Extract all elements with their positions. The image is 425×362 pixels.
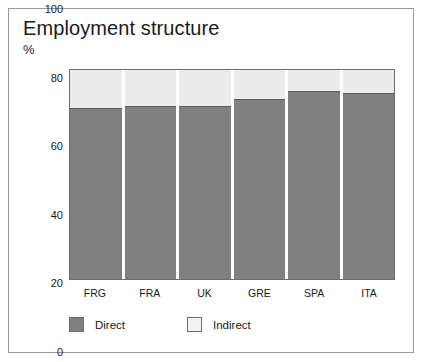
legend-swatch-direct-icon [69,317,84,332]
bar-ita[interactable] [343,70,395,279]
bar-gre-indirect [234,70,286,99]
bar-fra-indirect [125,70,177,106]
y-tick-80: 80 [17,72,63,84]
bar-gre[interactable] [234,70,286,279]
plot-area [69,69,395,280]
chart-figure: Employment structure % 0 20 40 60 80 100 [8,8,414,353]
bar-fra-direct [125,106,177,279]
bar-uk[interactable] [179,70,231,279]
y-axis-tick-labels: 0 20 40 60 80 100 [17,9,63,352]
legend-swatch-indirect-icon [187,317,202,332]
bar-uk-direct [179,106,231,279]
y-tick-20: 20 [17,277,63,289]
x-tick-spa: SPA [288,287,340,299]
bar-ita-indirect [343,70,395,93]
bar-gre-direct [234,99,286,279]
y-tick-60: 60 [17,140,63,152]
legend-item-indirect[interactable]: Indirect [187,317,251,332]
bar-uk-indirect [179,70,231,106]
bar-spa[interactable] [288,70,340,279]
x-tick-fra: FRA [124,287,176,299]
x-axis-tick-labels: FRG FRA UK GRE SPA ITA [69,287,395,299]
bar-spa-indirect [288,70,340,91]
bar-frg[interactable] [70,70,122,279]
y-tick-40: 40 [17,209,63,221]
x-tick-ita: ITA [343,287,395,299]
bar-frg-direct [70,108,122,279]
bar-ita-direct [343,93,395,279]
bar-group [70,70,394,279]
legend-label-direct: Direct [95,319,125,331]
x-tick-uk: UK [179,287,231,299]
y-tick-0: 0 [17,346,63,358]
legend-label-indirect: Indirect [213,319,251,331]
chart-legend: Direct Indirect [69,317,251,332]
x-tick-gre: GRE [233,287,285,299]
legend-item-direct[interactable]: Direct [69,317,125,332]
bar-fra[interactable] [125,70,177,279]
y-tick-100: 100 [17,3,63,15]
bar-frg-indirect [70,70,122,108]
x-tick-frg: FRG [69,287,121,299]
bar-spa-direct [288,91,340,279]
